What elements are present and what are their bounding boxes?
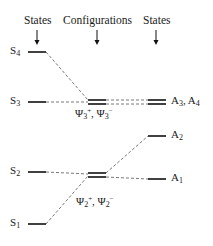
label-s1: S1 <box>10 216 20 230</box>
down-arrow-icon <box>95 30 100 45</box>
header-states-left: States <box>24 14 51 26</box>
label-s2: S2 <box>10 164 20 178</box>
down-arrow-icon <box>154 30 159 45</box>
label-a2: A2 <box>171 128 183 142</box>
label-psi2: Ψ2+, Ψ2− <box>76 195 114 209</box>
header-configurations: Configurations <box>63 14 132 26</box>
label-a3-a4: A3, A4 <box>171 94 200 108</box>
label-a1: A1 <box>171 171 183 185</box>
down-arrow-icon <box>35 30 40 45</box>
label-s3: S3 <box>10 94 20 108</box>
label-s4: S4 <box>10 44 20 58</box>
correlation-diagram <box>0 0 213 246</box>
header-states-right: States <box>143 14 170 26</box>
label-psi3: Ψ3+, Ψ3− <box>75 107 113 121</box>
